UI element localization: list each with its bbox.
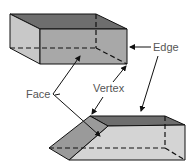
rectangular-prism [10, 14, 127, 64]
prism-front-face [40, 29, 127, 64]
vertex-arrow-bottom [92, 97, 103, 114]
slanted-prism [49, 116, 185, 160]
face-label: Face [26, 88, 50, 100]
face-leader [55, 94, 60, 95]
edge-arrow-bottom [141, 56, 158, 111]
vertex-annotation: Vertex [92, 66, 126, 114]
solids-diagram: Edge Face Vertex [0, 0, 191, 168]
vertex-label: Vertex [93, 82, 125, 94]
vertex-arrow-top [113, 66, 126, 82]
edge-label: Edge [153, 41, 179, 53]
edge-annotation: Edge [130, 41, 179, 111]
